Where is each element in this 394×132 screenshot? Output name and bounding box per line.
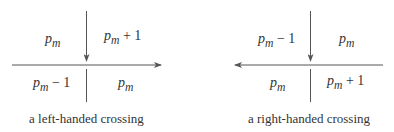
right-region-bottom-left: pm xyxy=(270,75,285,94)
left-region-bottom-right: pm xyxy=(118,75,133,94)
right-region-top-left: pm − 1 xyxy=(258,31,295,50)
right-region-top-right: pm xyxy=(339,31,354,50)
right-region-bottom-right: pm + 1 xyxy=(327,73,364,92)
left-region-top-left: pm xyxy=(45,31,60,50)
left-region-bottom-left: pm − 1 xyxy=(33,75,70,94)
left-caption: a left-handed crossing xyxy=(29,111,144,127)
right-caption: a right-handed crossing xyxy=(248,111,370,127)
left-region-top-right: pm + 1 xyxy=(104,28,141,47)
